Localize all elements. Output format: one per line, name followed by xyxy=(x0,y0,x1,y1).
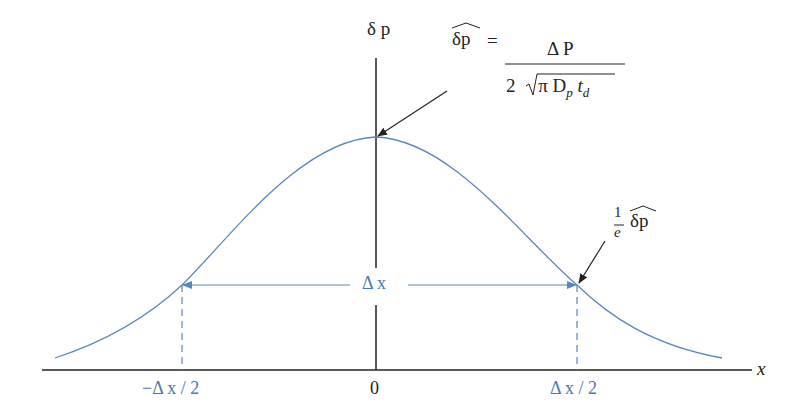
x-axis-label: x xyxy=(757,358,765,380)
decay-arrow xyxy=(579,241,605,283)
gaussian-curve xyxy=(55,137,722,358)
gaussian-diagram: δ p x −Δ x / 2 0 Δ x / 2 Δ x δp = Δ P 2 … xyxy=(0,0,789,415)
decay-denominator: e xyxy=(614,224,621,241)
peak-equals: = xyxy=(487,30,498,52)
tick-label-zero: 0 xyxy=(370,378,379,399)
width-label: Δ x xyxy=(362,273,386,294)
peak-denominator: 2 π Dp td xyxy=(506,75,589,101)
diagram-canvas xyxy=(0,0,789,415)
peak-numerator: Δ P xyxy=(547,38,574,60)
tick-label-neg-half-dx: −Δ x / 2 xyxy=(142,378,199,399)
decay-numerator: 1 xyxy=(614,204,622,221)
peak-arrow xyxy=(378,91,447,136)
decay-symbol: δp xyxy=(630,210,648,232)
tick-label-pos-half-dx: Δ x / 2 xyxy=(550,378,597,399)
peak-symbol: δp xyxy=(452,28,470,50)
y-axis-label: δ p xyxy=(367,18,390,40)
